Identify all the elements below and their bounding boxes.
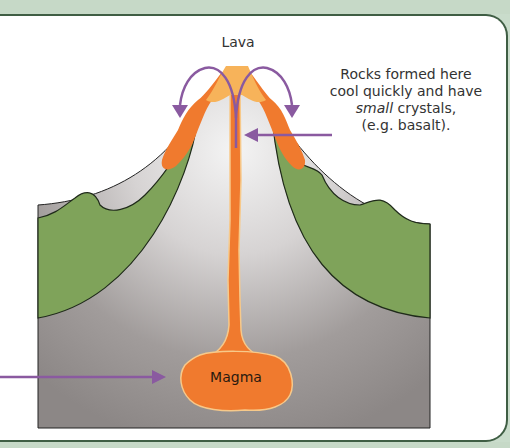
rocks-annotation: Rocks formed here cool quickly and have … <box>316 66 496 134</box>
magma-label: Magma <box>196 369 276 386</box>
small-emphasis: small <box>356 100 393 116</box>
lava-label: Lava <box>213 34 263 51</box>
right-arc-arrowhead-icon <box>284 105 300 118</box>
rocks-line-4: (e.g. basalt). <box>316 117 496 134</box>
rocks-line-1: Rocks formed here <box>316 66 496 83</box>
rocks-line-3: small crystals, <box>316 100 496 117</box>
rocks-line-2: cool quickly and have <box>316 83 496 100</box>
crystals-text: crystals, <box>393 100 456 116</box>
